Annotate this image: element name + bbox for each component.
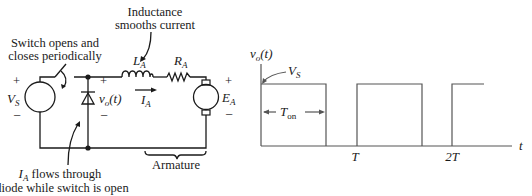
inductor-label: LA (132, 53, 146, 70)
back-emf-label: EA (221, 90, 236, 107)
motor-minus-sign: – (225, 106, 233, 120)
inductance-arrow-icon (143, 32, 151, 59)
source-minus-sign: – (13, 107, 21, 121)
x-axis-label: t (519, 138, 523, 153)
switch-annotation-line1: Switch opens and (11, 36, 100, 50)
wire-source-bottom (40, 112, 206, 148)
y-axis-label: vo(t) (250, 46, 273, 63)
switch-annotation-line2: closes periodically (8, 49, 102, 63)
vs-pointer-arrow-icon (263, 72, 286, 82)
tick-label-T: T (351, 149, 359, 164)
chopper-circuit: Inductance smooths current Switch opens … (0, 5, 236, 195)
vs-level-label: VS (288, 63, 301, 80)
armature-label: Armature (152, 158, 200, 172)
t-on-label: Ton (280, 104, 297, 121)
output-plus-sign: + (100, 74, 107, 88)
inductance-annotation-line2: smooths current (115, 18, 196, 32)
current-arrow-icon (135, 88, 157, 93)
inductor-icon (122, 71, 153, 77)
current-label: IA (140, 92, 151, 109)
output-waveform-plot: Ton VS vo(t) t T 2T (250, 46, 523, 164)
junction-dot-bottom (85, 145, 90, 150)
voltage-source-icon (25, 82, 55, 112)
diode-arrow-icon (68, 124, 78, 165)
output-voltage-label: vo(t) (99, 91, 122, 108)
resistor-icon (167, 73, 190, 81)
source-plus-sign: + (13, 74, 20, 88)
motor-plus-sign: + (225, 74, 232, 88)
wire-source-top (40, 77, 55, 82)
chopper-figure: Inductance smooths current Switch opens … (0, 0, 532, 196)
tick-label-2T: 2T (445, 149, 460, 164)
source-voltage-label: VS (7, 91, 20, 108)
inductance-annotation-line1: Inductance (128, 5, 183, 19)
dc-motor-icon (194, 80, 219, 118)
junction-dot-top (85, 74, 90, 79)
resistor-label: RA (173, 53, 188, 70)
diode-annotation-line2: diode while switch is open (0, 181, 129, 195)
output-minus-sign: – (100, 107, 108, 121)
switch-icon (55, 64, 66, 89)
